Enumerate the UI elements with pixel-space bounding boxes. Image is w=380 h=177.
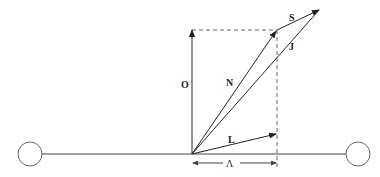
label-l: L bbox=[228, 134, 235, 145]
vector-s-arrow bbox=[277, 10, 319, 30]
label-s: S bbox=[289, 12, 295, 23]
right-node-circle bbox=[346, 142, 370, 166]
label-j: J bbox=[289, 41, 294, 52]
vector-diagram: O N S J L Λ bbox=[0, 0, 380, 177]
vector-j-line bbox=[192, 10, 319, 154]
label-lambda: Λ bbox=[226, 158, 234, 169]
label-n: N bbox=[226, 77, 234, 88]
label-o: O bbox=[181, 79, 189, 90]
left-node-circle bbox=[18, 142, 42, 166]
